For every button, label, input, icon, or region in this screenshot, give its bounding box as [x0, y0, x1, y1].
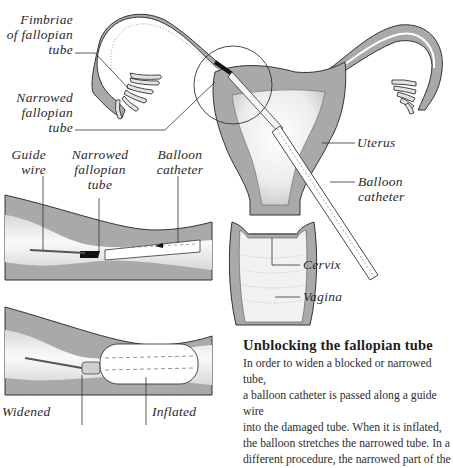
caption: Unblocking the fallopian tube In order t… [243, 337, 453, 468]
vagina [229, 222, 316, 325]
label-narrowed-inset: Narrowed fallopian tube [65, 147, 135, 192]
inset-inflated-balloon [5, 307, 212, 395]
label-inflated: Inflated [152, 404, 196, 419]
label-narrowed-main: Narrowed fallopian tube [5, 90, 73, 135]
left-fallopian-tube [92, 14, 232, 119]
label-vagina: Vagina [303, 289, 342, 304]
label-fimbriae: Fimbriae of fallopian tube [5, 12, 73, 57]
label-widened: Widened [2, 404, 51, 419]
caption-body: In order to widen a blocked or narrowed … [243, 356, 453, 468]
label-balloon-catheter-inset: Balloon catheter [147, 147, 213, 177]
label-balloon-catheter-main: Balloon catheter [358, 174, 453, 204]
label-guide-wire: Guide wire [0, 147, 46, 177]
label-cervix: Cervix [303, 257, 341, 272]
caption-title: Unblocking the fallopian tube [243, 337, 453, 354]
label-uterus: Uterus [357, 135, 396, 150]
inset-narrowed-tube [5, 195, 212, 280]
